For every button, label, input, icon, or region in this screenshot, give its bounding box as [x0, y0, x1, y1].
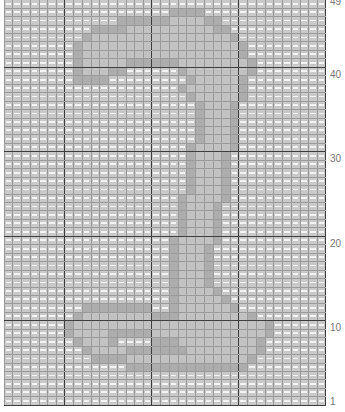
stitch-cell [30, 126, 39, 134]
stitch-cell [213, 194, 222, 202]
stitch-cell [282, 185, 291, 193]
stitch-cell [178, 329, 187, 337]
stitch-cell [204, 236, 213, 244]
stitch-cell [178, 16, 187, 24]
stitch-cell [21, 253, 30, 261]
stitch-cell [239, 253, 248, 261]
stitch-cell [309, 236, 318, 244]
stitch-cell [309, 135, 318, 143]
stitch-cell [13, 160, 22, 168]
stitch-cell [82, 16, 91, 24]
stitch-cell [282, 76, 291, 84]
stitch-cell [248, 346, 257, 354]
stitch-cell [91, 25, 100, 33]
stitch-cell [13, 84, 22, 92]
stitch-cell [65, 50, 74, 58]
stitch-cell [100, 126, 109, 134]
stitch-cell [213, 371, 222, 379]
stitch-cell [300, 211, 309, 219]
stitch-cell [169, 278, 178, 286]
stitch-cell [248, 84, 257, 92]
stitch-cell [108, 25, 117, 33]
gridline [4, 253, 326, 254]
stitch-cell [4, 160, 13, 168]
stitch-cell [13, 295, 22, 303]
stitch-cell [82, 388, 91, 396]
stitch-cell [239, 160, 248, 168]
stitch-cell [161, 380, 170, 388]
stitch-cell [291, 287, 300, 295]
stitch-cell [117, 346, 126, 354]
stitch-cell [4, 42, 13, 50]
stitch-cell [126, 101, 135, 109]
stitch-cell [291, 168, 300, 176]
stitch-cell [169, 177, 178, 185]
stitch-cell [265, 109, 274, 117]
stitch-cell [152, 261, 161, 269]
stitch-cell [152, 50, 161, 58]
gridline [39, 0, 40, 405]
stitch-cell [108, 16, 117, 24]
stitch-cell [74, 363, 83, 371]
stitch-cell [256, 177, 265, 185]
stitch-cell [204, 118, 213, 126]
stitch-cell [100, 295, 109, 303]
stitch-cell [274, 177, 283, 185]
stitch-cell [82, 219, 91, 227]
stitch-cell [239, 354, 248, 362]
stitch-cell [91, 92, 100, 100]
stitch-cell [239, 287, 248, 295]
stitch-cell [309, 152, 318, 160]
stitch-cell [239, 304, 248, 312]
stitch-cell [309, 278, 318, 286]
stitch-cell [291, 202, 300, 210]
stitch-cell [291, 261, 300, 269]
stitch-cell [187, 8, 196, 16]
stitch-cell [108, 329, 117, 337]
stitch-cell [21, 236, 30, 244]
stitch-cell [213, 287, 222, 295]
stitch-cell [126, 84, 135, 92]
stitch-cell [178, 363, 187, 371]
stitch-cell [74, 211, 83, 219]
gridline [4, 295, 326, 296]
stitch-cell [309, 363, 318, 371]
stitch-cell [135, 337, 144, 345]
stitch-cell [30, 363, 39, 371]
stitch-cell [65, 101, 74, 109]
stitch-cell [82, 329, 91, 337]
stitch-cell [169, 304, 178, 312]
stitch-cell [187, 126, 196, 134]
stitch-cell [91, 42, 100, 50]
stitch-cell [100, 287, 109, 295]
stitch-cell [274, 168, 283, 176]
stitch-cell [65, 160, 74, 168]
stitch-cell [82, 211, 91, 219]
stitch-cell [74, 202, 83, 210]
stitch-cell [282, 25, 291, 33]
stitch-cell [169, 50, 178, 58]
stitch-cell [178, 354, 187, 362]
stitch-cell [222, 380, 231, 388]
gridline [4, 16, 326, 17]
stitch-cell [195, 329, 204, 337]
stitch-cell [291, 329, 300, 337]
gridline [4, 50, 326, 51]
stitch-cell [48, 168, 57, 176]
stitch-cell [4, 50, 13, 58]
stitch-cell [265, 8, 274, 16]
stitch-cell [108, 42, 117, 50]
stitch-cell [256, 295, 265, 303]
gridline [4, 388, 326, 389]
stitch-cell [91, 67, 100, 75]
stitch-cell [13, 278, 22, 286]
stitch-cell [39, 261, 48, 269]
stitch-cell [282, 168, 291, 176]
stitch-cell [126, 261, 135, 269]
stitch-cell [309, 304, 318, 312]
stitch-cell [213, 8, 222, 16]
stitch-cell [178, 236, 187, 244]
stitch-cell [21, 329, 30, 337]
stitch-cell [4, 211, 13, 219]
stitch-cell [195, 337, 204, 345]
